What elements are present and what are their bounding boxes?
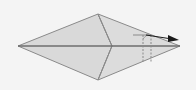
origami-diagram: [0, 0, 196, 90]
